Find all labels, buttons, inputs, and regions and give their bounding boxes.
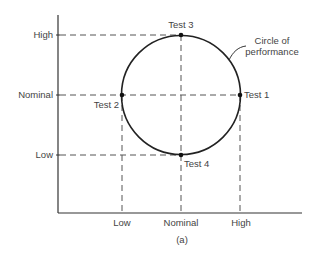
test-3-point [179,33,184,38]
x-label-high: High [231,217,251,228]
y-label-low: Low [36,149,54,160]
test-1-point [238,93,243,98]
test-1-label: Test 1 [244,89,269,100]
x-label-nominal: Nominal [164,217,199,228]
test-2-label: Test 2 [94,99,119,110]
test-4-point [179,153,184,158]
test-4-label: Test 4 [184,158,209,169]
y-label-nominal: Nominal [18,89,53,100]
circle-label-leader [229,46,246,60]
circle-label-line2: performance [245,46,298,57]
test-2-point [120,93,125,98]
x-label-low: Low [113,217,131,228]
y-label-high: High [33,29,53,40]
circle-label-line1: Circle of [255,35,290,46]
figure-caption: (a) [176,234,188,245]
test-3-label: Test 3 [168,19,193,30]
performance-circle-diagram: High Nominal Low Low Nominal High Test 1… [0,0,318,260]
